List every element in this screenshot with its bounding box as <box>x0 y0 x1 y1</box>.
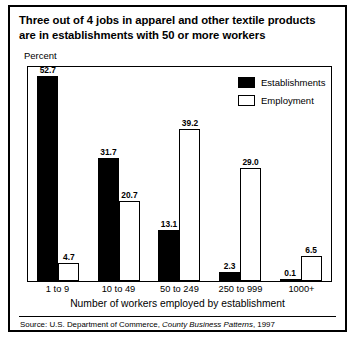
bar-value-label: 31.7 <box>100 147 116 157</box>
bar-rect <box>179 129 200 282</box>
bar-value-label: 13.1 <box>161 219 177 229</box>
bar-establishments-1[interactable]: 31.7 <box>98 158 119 281</box>
bar-establishments-2[interactable]: 13.1 <box>158 230 179 281</box>
bar-employment-2[interactable]: 39.2 <box>179 129 200 282</box>
bar-rect <box>119 201 140 282</box>
bar-rect <box>240 168 261 281</box>
y-axis-caption: Percent <box>24 50 57 61</box>
source-divider <box>19 316 336 317</box>
bar-group: 31.720.7 <box>89 67 150 281</box>
bar-employment-3[interactable]: 29.0 <box>240 168 261 281</box>
bar-establishments-0[interactable]: 52.7 <box>37 76 58 281</box>
bar-group: 52.74.7 <box>28 67 89 281</box>
bar-group: 13.139.2 <box>149 67 210 281</box>
bar-value-label: 52.7 <box>40 65 56 75</box>
bar-rect <box>158 230 179 281</box>
source-note: Source: U.S. Department of Commerce, Cou… <box>20 320 275 329</box>
source-prefix: Source: U.S. Department of Commerce, <box>20 320 162 329</box>
bar-employment-0[interactable]: 4.7 <box>58 263 79 281</box>
bar-establishments-3[interactable]: 2.3 <box>219 272 240 281</box>
bar-group: 2.329.0 <box>210 67 271 281</box>
category-axis: 1 to 910 to 4950 to 249250 to 9991000+ <box>27 284 332 294</box>
bar-value-label: 2.3 <box>224 261 236 271</box>
plot-frame: Establishments Employment 52.74.731.720.… <box>27 66 332 282</box>
bar-rect <box>219 272 240 281</box>
bar-value-label: 0.1 <box>284 268 296 278</box>
bar-rect <box>58 263 79 281</box>
bar-rect <box>280 279 301 281</box>
bar-group: 0.16.5 <box>270 67 331 281</box>
bar-value-label: 4.7 <box>63 252 75 262</box>
chart-title-line-2: are in establishments with 50 or more wo… <box>19 28 339 43</box>
bar-establishments-4[interactable]: 0.1 <box>280 279 301 281</box>
bar-value-label: 20.7 <box>121 190 137 200</box>
bar-rect <box>37 76 58 281</box>
chart-title: Three out of 4 jobs in apparel and other… <box>19 13 339 42</box>
bar-employment-4[interactable]: 6.5 <box>301 256 322 281</box>
x-axis-title: Number of workers employed by establishm… <box>10 298 345 309</box>
bar-groups: 52.74.731.720.713.139.22.329.00.16.5 <box>28 67 331 281</box>
category-label: 1000+ <box>271 284 332 294</box>
plot-area: Establishments Employment 52.74.731.720.… <box>28 67 331 281</box>
bar-value-label: 29.0 <box>242 157 258 167</box>
bar-employment-1[interactable]: 20.7 <box>119 201 140 282</box>
category-label: 250 to 999 <box>210 284 271 294</box>
category-label: 10 to 49 <box>88 284 149 294</box>
category-label: 1 to 9 <box>27 284 88 294</box>
chart-title-line-1: Three out of 4 jobs in apparel and other… <box>19 13 339 28</box>
bar-value-label: 6.5 <box>305 245 317 255</box>
source-publication: County Business Patterns <box>162 320 253 329</box>
bar-value-label: 39.2 <box>182 118 198 128</box>
bar-rect <box>301 256 322 281</box>
source-suffix: , 1997 <box>253 320 275 329</box>
chart-figure: Three out of 4 jobs in apparel and other… <box>8 5 347 332</box>
bar-rect <box>98 158 119 281</box>
category-label: 50 to 249 <box>149 284 210 294</box>
